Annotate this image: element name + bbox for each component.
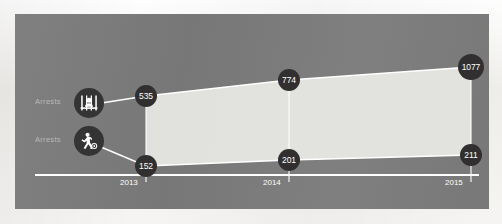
value-bubble-upper-2015[interactable]: 1077 [458, 54, 484, 80]
x-tick-2013: 2013 [120, 178, 138, 187]
x-tick-2015: 2015 [445, 178, 463, 187]
value-bubble-upper-2013[interactable]: 535 [135, 85, 157, 107]
value-bubble-lower-2014[interactable]: 201 [278, 149, 300, 171]
series-band-fill [146, 67, 471, 166]
person-behind-bars-icon [74, 88, 104, 118]
value-bubble-lower-2015[interactable]: 211 [460, 144, 482, 166]
person-with-ball-icon [74, 126, 104, 156]
chart-panel: Arrests Arrests 535 [15, 14, 489, 209]
value-bubble-lower-2013[interactable]: 152 [135, 155, 157, 177]
value-bubble-upper-2014[interactable]: 774 [278, 69, 300, 91]
x-tick-2014: 2014 [263, 178, 281, 187]
series-label-lower: Arrests [35, 135, 61, 144]
series-label-upper: Arrests [35, 97, 61, 106]
page-background: Arrests Arrests 535 [0, 0, 502, 224]
